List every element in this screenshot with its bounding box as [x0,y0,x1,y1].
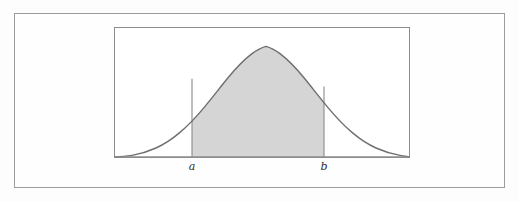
axis-tick-label-a: a [185,161,199,172]
axis-tick-label-b: b [317,161,331,172]
normal-curve-svg [114,27,410,158]
plot-area: a b [114,27,410,158]
figure-canvas: a b [0,0,519,202]
